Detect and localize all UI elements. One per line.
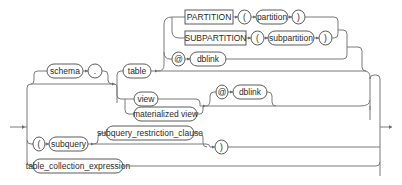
- syntax-diagram: schema . table PARTITION ( partition ): [0, 0, 402, 185]
- svg-text:@: @: [174, 54, 183, 64]
- subquery-node: subquery: [49, 137, 88, 151]
- entry-arrow: [10, 125, 27, 129]
- dot-node: .: [88, 64, 102, 78]
- subpartition-node: subpartition: [268, 31, 314, 45]
- svg-text:@: @: [218, 87, 227, 97]
- partition-keyword-label: PARTITION: [187, 12, 232, 22]
- svg-text:SUBPARTITION: SUBPARTITION: [184, 33, 246, 43]
- partition-lparen: (: [238, 10, 251, 24]
- table-dblink-node: dblink: [190, 52, 226, 66]
- svg-text:): ): [297, 12, 300, 22]
- svg-text:): ): [324, 33, 327, 43]
- svg-text:(: (: [243, 12, 246, 22]
- svg-text:(: (: [38, 139, 41, 149]
- view-node: view: [134, 92, 158, 106]
- subpartition-lparen: (: [251, 31, 264, 45]
- view-at-node: @: [216, 85, 228, 99]
- svg-text:partition: partition: [257, 12, 288, 22]
- partition-rparen: ): [292, 10, 305, 24]
- left-trunk: [27, 84, 117, 103]
- partition-node: partition: [256, 10, 288, 24]
- svg-text:dblink: dblink: [239, 87, 262, 97]
- schema-label: schema: [50, 66, 80, 76]
- subpartition-rparen: ): [319, 31, 332, 45]
- view-dblink-node: dblink: [233, 85, 267, 99]
- table-at-node: @: [172, 52, 185, 66]
- svg-text:view: view: [137, 94, 155, 104]
- table-node: table: [123, 64, 151, 78]
- svg-text:dblink: dblink: [197, 54, 220, 64]
- table-label: table: [128, 66, 147, 76]
- svg-text:subquery_restriction_clause: subquery_restriction_clause: [97, 128, 203, 138]
- svg-text:subquery: subquery: [51, 139, 87, 149]
- svg-text:): ): [220, 142, 223, 152]
- materialized-view-node: materialized view: [133, 107, 199, 121]
- svg-text:subpartition: subpartition: [269, 33, 313, 43]
- subquery-lparen: (: [33, 137, 45, 151]
- table-collection-expression-node: table_collection_expression: [26, 159, 131, 173]
- subpartition-keyword: SUBPARTITION: [184, 31, 246, 45]
- subquery-restriction-clause-node: subquery_restriction_clause: [97, 126, 203, 140]
- svg-text:(: (: [256, 33, 259, 43]
- partition-keyword: PARTITION: [185, 10, 233, 24]
- svg-text:table_collection_expression: table_collection_expression: [26, 161, 131, 171]
- svg-text:materialized view: materialized view: [133, 109, 199, 119]
- dot-label: .: [94, 66, 96, 76]
- schema-node: schema: [47, 64, 83, 78]
- subquery-rparen: ): [215, 140, 228, 154]
- exit-arrow: [380, 125, 392, 129]
